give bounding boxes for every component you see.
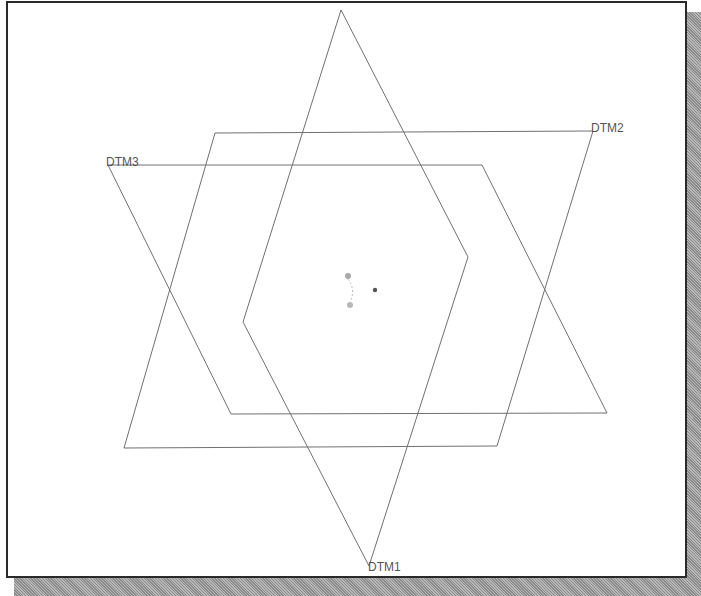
spin-center-icon <box>345 273 377 308</box>
dtm2-label[interactable]: DTM2 <box>591 121 624 135</box>
dtm2-outline[interactable] <box>124 131 593 448</box>
dtm3-outline[interactable] <box>108 165 607 414</box>
model-canvas[interactable]: DTM1 DTM2 DTM3 <box>0 0 701 596</box>
csys-arc-icon <box>348 279 353 302</box>
csys-dot-bottom-icon <box>347 302 353 308</box>
datum-plane-dtm3[interactable]: DTM3 <box>106 155 607 414</box>
dtm1-outline[interactable] <box>243 10 468 566</box>
center-point-icon <box>373 288 377 292</box>
csys-dot-top-icon <box>345 273 351 279</box>
datum-plane-dtm1[interactable]: DTM1 <box>243 10 468 574</box>
datum-plane-dtm2[interactable]: DTM2 <box>124 121 624 448</box>
dtm3-label[interactable]: DTM3 <box>106 155 139 169</box>
dtm1-label[interactable]: DTM1 <box>368 560 401 574</box>
